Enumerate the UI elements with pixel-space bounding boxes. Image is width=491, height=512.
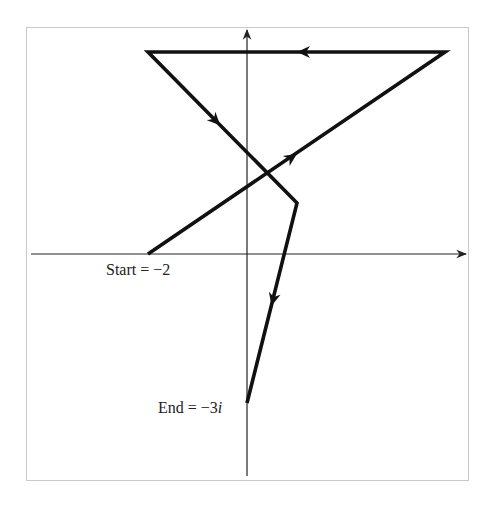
start-label: Start = −2 [106,262,170,278]
imaginary-unit: i [218,399,222,416]
contour-path [148,52,445,403]
complex-plane-diagram [0,0,491,512]
end-label-text: End = −3 [158,399,218,416]
start-label-text: Start = −2 [106,261,170,278]
end-label: End = −3i [158,400,222,416]
